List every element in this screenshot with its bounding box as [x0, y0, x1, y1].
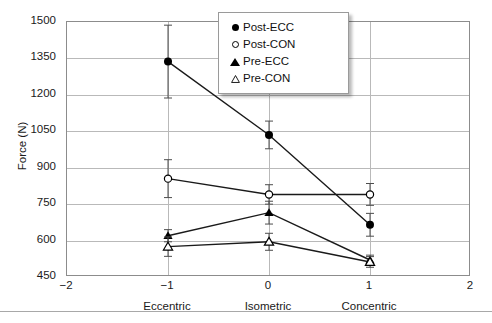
- y-tick-label: 1200: [14, 88, 56, 100]
- legend-label: Post-CON: [243, 39, 295, 51]
- data-point-marker: [366, 191, 373, 198]
- legend-item-pre-con: Pre-CON: [227, 70, 340, 87]
- force-line-chart: Force (N) 1500135012001050900750600450 −…: [0, 0, 492, 323]
- legend-label: Pre-ECC: [243, 56, 289, 68]
- data-point-marker: [164, 58, 172, 66]
- data-point-marker: [265, 191, 272, 198]
- footer-divider: [0, 311, 492, 312]
- y-tick-label: 1500: [14, 15, 56, 27]
- filled-circle-icon: [227, 24, 243, 31]
- y-tick-label: 600: [14, 234, 56, 246]
- open-circle-icon: [227, 41, 243, 48]
- legend-item-pre-ecc: Pre-ECC: [227, 53, 340, 70]
- y-axis-label: Force (N): [16, 101, 28, 191]
- x-tick-label: −1: [147, 280, 187, 292]
- filled-triangle-icon: [227, 58, 243, 66]
- y-tick-label: 900: [14, 161, 56, 173]
- legend-item-post-con: Post-CON: [227, 36, 340, 53]
- y-tick-label: 1350: [14, 51, 56, 63]
- series-pre-con: [163, 233, 374, 267]
- y-tick-label: 750: [14, 197, 56, 209]
- legend-item-post-ecc: Post-ECC: [227, 19, 340, 36]
- x-tick-label: 1: [349, 280, 389, 292]
- x-tick-label: 2: [450, 280, 490, 292]
- data-point-marker: [366, 221, 374, 229]
- x-tick-label: 0: [248, 280, 288, 292]
- legend-label: Pre-CON: [243, 73, 290, 85]
- data-point-marker: [164, 175, 171, 182]
- y-tick-label: 1050: [14, 124, 56, 136]
- x-tick-label: −2: [46, 280, 86, 292]
- series-post-con: [164, 160, 374, 206]
- data-point-marker: [265, 131, 273, 139]
- data-point-marker: [264, 208, 273, 216]
- open-triangle-icon: [227, 75, 243, 83]
- legend-label: Post-ECC: [243, 22, 294, 34]
- chart-legend: Post-ECC Post-CON Pre-ECC Pre-CON: [218, 12, 349, 94]
